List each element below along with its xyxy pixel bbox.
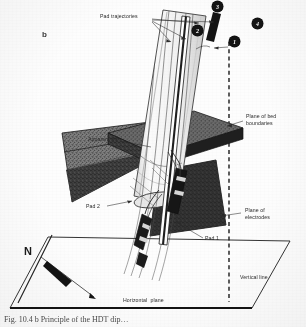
pad-marker-2: 2 — [192, 25, 203, 36]
pad-marker-4: 4 — [252, 18, 263, 29]
label-pad-2: Pad 2 — [86, 203, 100, 209]
pad-marker-1: 1 — [229, 36, 240, 47]
label-plane-of-bed-boundaries-line1: Plane of bed — [246, 113, 276, 119]
label-horizontal-plane: Horizontal plane — [123, 297, 164, 303]
figure-container: b Pad trajectories Apparent dip Plane of… — [0, 0, 306, 327]
label-plane-of-electrodes-line2: electrodes — [245, 214, 270, 220]
label-vertical-line: Vertical line — [240, 274, 268, 280]
label-apparent-dip: Apparent dip — [88, 136, 119, 142]
label-pad-trajectories: Pad trajectories — [100, 13, 138, 19]
label-plane-of-bed-boundaries-line2: boundaries — [246, 120, 273, 126]
compass-north-label: N — [24, 245, 32, 257]
pad-marker-3: 3 — [212, 1, 223, 12]
panel-letter: b — [42, 30, 47, 39]
label-plane-of-electrodes-line1: Plane of — [245, 207, 265, 213]
label-pad-1: Pad 1 — [205, 235, 219, 241]
figure-caption: Fig. 10.4 b Principle of the HDT dip… — [4, 315, 302, 326]
